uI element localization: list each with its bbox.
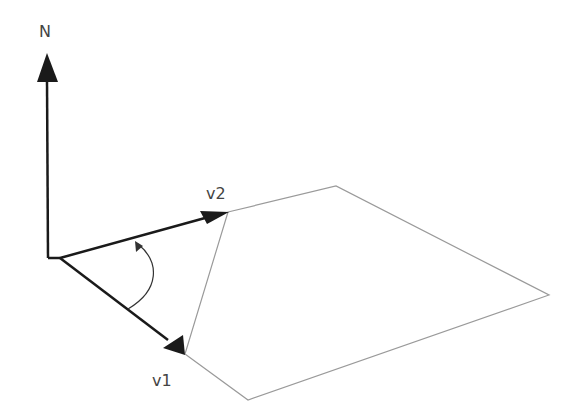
normal-vector [37,53,58,258]
v1-label: v1 [152,371,172,390]
plane-outline [185,186,549,400]
v1-vector [60,258,185,355]
normal-arrowhead-icon [37,53,58,82]
normal-label: N [39,22,51,41]
v2-label: v2 [206,184,226,203]
angle-arc-arrowhead-icon [135,241,143,252]
diagram-canvas: N v2 v1 [0,0,577,411]
angle-arc [128,244,153,309]
